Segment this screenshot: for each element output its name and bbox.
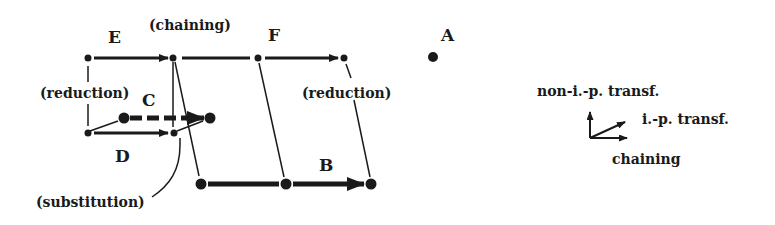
legend-chaining-label: chaining <box>612 151 681 167</box>
node-F-end <box>341 55 348 62</box>
node-F-start <box>255 55 262 62</box>
label-F: F <box>268 25 280 45</box>
label-substitution: (substitution) <box>36 194 145 210</box>
node-B-3 <box>366 179 377 190</box>
line-reduction-right <box>346 64 351 78</box>
label-C: C <box>142 90 156 110</box>
substitution-pointer <box>152 138 180 197</box>
label-E: E <box>108 27 121 47</box>
node-E-start <box>85 55 92 62</box>
axes-legend: non-i.-p. transf. i.-p. transf. chaining <box>537 83 729 167</box>
label-reduction-left: (reduction) <box>40 85 129 101</box>
label-B: B <box>319 155 333 175</box>
node-A <box>428 52 438 62</box>
node-B-1 <box>196 179 207 190</box>
label-reduction-right: (reduction) <box>302 85 391 101</box>
label-A: A <box>440 25 455 45</box>
legend-diagonal-axis <box>590 122 625 138</box>
line-D-end-to-C-end <box>177 121 203 131</box>
node-chaining <box>170 55 177 62</box>
label-chaining-top: (chaining) <box>149 17 231 33</box>
node-C-start <box>119 113 130 124</box>
line-reduction-right-2 <box>354 100 370 177</box>
line-D-to-C <box>90 121 118 131</box>
line-F-diagonal <box>259 63 284 177</box>
label-D: D <box>115 146 130 166</box>
node-C-end <box>205 113 216 124</box>
legend-ip-label: i.-p. transf. <box>642 111 729 127</box>
node-D-end <box>171 130 178 137</box>
node-B-2 <box>281 179 292 190</box>
legend-non-ip-label: non-i.-p. transf. <box>537 83 659 99</box>
transformation-diagram: E (chaining) F A (reduction) C D (reduct… <box>0 0 775 225</box>
node-D-start <box>85 130 92 137</box>
